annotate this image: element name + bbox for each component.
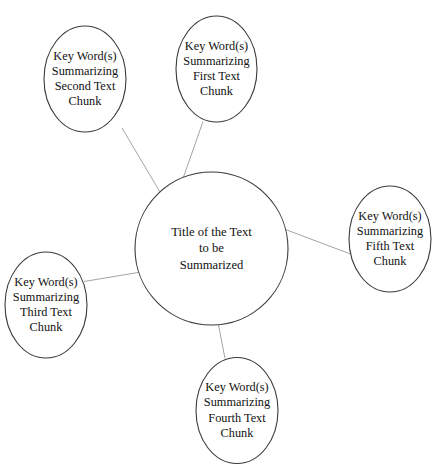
diagram-graphics	[0, 0, 436, 474]
satellite-node-third-text-chunk[interactable]	[5, 252, 87, 358]
satellite-node-second-text-chunk[interactable]	[44, 26, 126, 132]
node-shape-layer	[5, 16, 431, 464]
connector-line-first-text-chunk	[184, 122, 204, 178]
diagram-canvas: Sample Semantic Web Organizer Title of t…	[0, 0, 436, 474]
satellite-node-first-text-chunk[interactable]	[176, 16, 257, 122]
satellite-node-fifth-text-chunk[interactable]	[349, 186, 431, 292]
connector-line-second-text-chunk	[122, 128, 160, 192]
connector-line-fifth-text-chunk	[286, 230, 351, 255]
connector-line-third-text-chunk	[84, 272, 141, 282]
satellite-node-fourth-text-chunk[interactable]	[196, 358, 278, 464]
connector-line-fourth-text-chunk	[219, 325, 226, 359]
center-node-center[interactable]	[135, 172, 288, 325]
